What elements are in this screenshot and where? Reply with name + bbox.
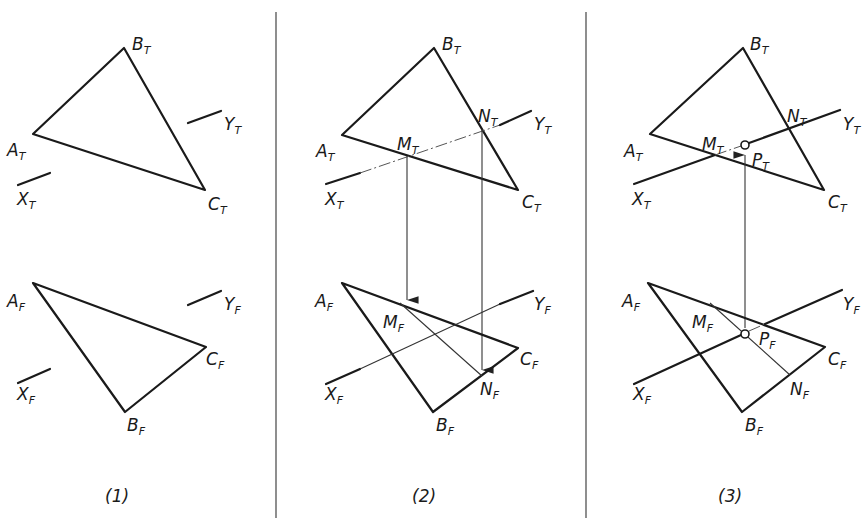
label-m-front: MF: [692, 312, 714, 335]
label-c-front: CF: [520, 349, 539, 372]
label-c-top: CT: [208, 194, 228, 217]
label-c-top: CT: [828, 192, 848, 215]
panel-1: BT AT YT XT CT AF YF CF XF BF (1): [6, 34, 242, 506]
label-y-front: YF: [843, 294, 860, 317]
panel-2: BT AT MT NT YT XT CT AF MF YF CF NF XF B…: [314, 34, 552, 506]
line-xy-top-x-stub: [18, 173, 50, 185]
label-b-front: BF: [436, 415, 455, 438]
label-y-front: YF: [224, 294, 241, 317]
triangle-front-view: [33, 283, 206, 412]
label-c-top: CT: [522, 192, 542, 215]
label-a-top: AT: [6, 140, 27, 163]
label-a-top: AT: [623, 141, 644, 164]
line-mn-front: [400, 303, 482, 376]
label-y-top: YT: [843, 114, 861, 137]
label-m-top: MT: [397, 134, 420, 157]
label-m-front: MF: [383, 312, 405, 335]
panel-3: BT AT MT PT NT YT XT CT AF MF PF YF CF N…: [621, 34, 861, 506]
line-mn-front: [710, 303, 790, 375]
caption-1: (1): [105, 486, 129, 506]
label-x-front: XF: [632, 384, 652, 407]
line-xy-front-x-stub: [18, 369, 50, 383]
label-y-front: YF: [534, 294, 551, 317]
label-b-top: BT: [442, 34, 462, 57]
line-xy-front-y-part: [765, 290, 842, 324]
label-a-front: AF: [314, 291, 334, 314]
label-x-top: XT: [631, 189, 652, 212]
line-xy-top-hidden: [360, 125, 500, 173]
line-xy-top-y-end: [500, 111, 531, 125]
label-b-front: BF: [745, 415, 764, 438]
triangle-top-view: [33, 48, 205, 190]
line-xy-top-x-part: [634, 155, 715, 184]
line-xy-front-y-stub: [188, 291, 221, 305]
label-b-front: BF: [127, 415, 146, 438]
label-c-front: CF: [206, 349, 225, 372]
label-a-front: AF: [621, 291, 641, 314]
label-b-top: BT: [132, 34, 152, 57]
line-xy-top-y-stub: [188, 111, 221, 123]
label-x-front: XF: [324, 384, 344, 407]
label-y-top: YT: [534, 114, 552, 137]
label-n-front: NF: [790, 379, 810, 402]
label-y-top: YT: [224, 114, 242, 137]
projection-diagram: BT AT YT XT CT AF YF CF XF BF (1) BT AT …: [0, 0, 867, 523]
label-n-top: NT: [478, 106, 499, 129]
label-b-top: BT: [750, 34, 770, 57]
line-xy-front-y-end: [500, 291, 533, 304]
line-xy-front-x-part: [634, 335, 741, 384]
label-m-top: MT: [702, 134, 725, 157]
label-x-top: XT: [324, 189, 345, 212]
line-xy-front-x-end: [326, 369, 360, 384]
label-n-top: NT: [787, 106, 808, 129]
label-p-front: PF: [759, 329, 776, 352]
label-p-top: PT: [752, 150, 770, 173]
label-n-front: NF: [480, 379, 500, 402]
label-a-top: AT: [315, 141, 336, 164]
line-xy-top-x-end: [326, 173, 360, 184]
piercing-point-top: [741, 141, 749, 149]
piercing-point-front: [741, 330, 749, 338]
label-x-front: XF: [16, 384, 36, 407]
caption-3: (3): [718, 486, 742, 506]
label-c-front: CF: [828, 349, 847, 372]
label-a-front: AF: [6, 291, 26, 314]
label-x-top: XT: [16, 189, 37, 212]
caption-2: (2): [412, 486, 436, 506]
